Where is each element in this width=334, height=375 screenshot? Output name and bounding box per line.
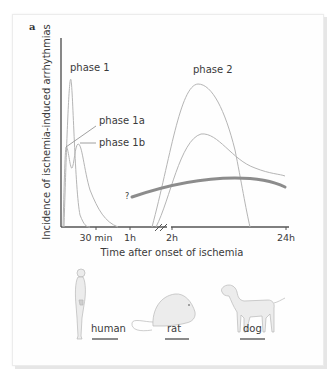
annotation-phase2: phase 2 (193, 64, 233, 75)
annotation-question: ? (125, 192, 129, 201)
curve-thick-uncertain (132, 178, 285, 197)
tick-label-30min: 30 min (79, 232, 112, 243)
tick-label-24h: 24h (277, 232, 295, 243)
leader-phase1a (66, 126, 96, 147)
tick-label-1h: 1h (124, 232, 136, 243)
human-icon (75, 269, 85, 339)
x-axis-label: Time after onset of ischemia (100, 247, 244, 258)
species-label-human: human (91, 323, 126, 334)
annotation-phase1a: phase 1a (99, 115, 145, 126)
curve-phase1a-1b (63, 144, 118, 227)
species-underline-dog (240, 338, 265, 340)
chart-canvas: phase 1 phase 1a phase 1b phase 2 ? 30 m… (0, 0, 334, 375)
rat-icon (132, 294, 195, 331)
species-label-rat: rat (167, 323, 181, 334)
species-underline-human (92, 338, 118, 340)
y-axis-label: Incidence of ischemia-induced arrhythmia… (41, 24, 52, 240)
species-underline-rat (165, 338, 189, 340)
tick-label-2h: 2h (166, 232, 178, 243)
annotation-phase1b: phase 1b (99, 137, 145, 148)
annotation-phase1: phase 1 (70, 62, 110, 73)
species-label-dog: dog (243, 323, 262, 334)
